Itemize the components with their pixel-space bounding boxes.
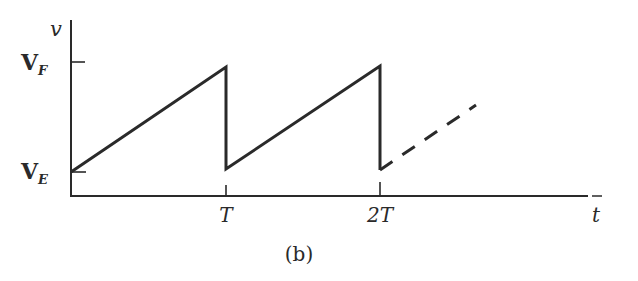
- x-axis-label: t: [592, 203, 601, 227]
- x-tick-label-2t: 2T: [366, 203, 395, 227]
- sawtooth-waveform: [71, 66, 476, 172]
- vf-label: VF: [20, 49, 48, 78]
- y-axis-label: v: [50, 17, 62, 41]
- x-tick-label-t: T: [219, 203, 234, 227]
- ve-label: VE: [20, 158, 49, 187]
- solid-waveform: [71, 66, 380, 172]
- sawtooth-diagram: v VF VE T 2T t (b): [0, 0, 638, 281]
- dashed-continuation: [380, 105, 476, 170]
- axes: [70, 20, 602, 197]
- figure-caption: (b): [285, 242, 313, 266]
